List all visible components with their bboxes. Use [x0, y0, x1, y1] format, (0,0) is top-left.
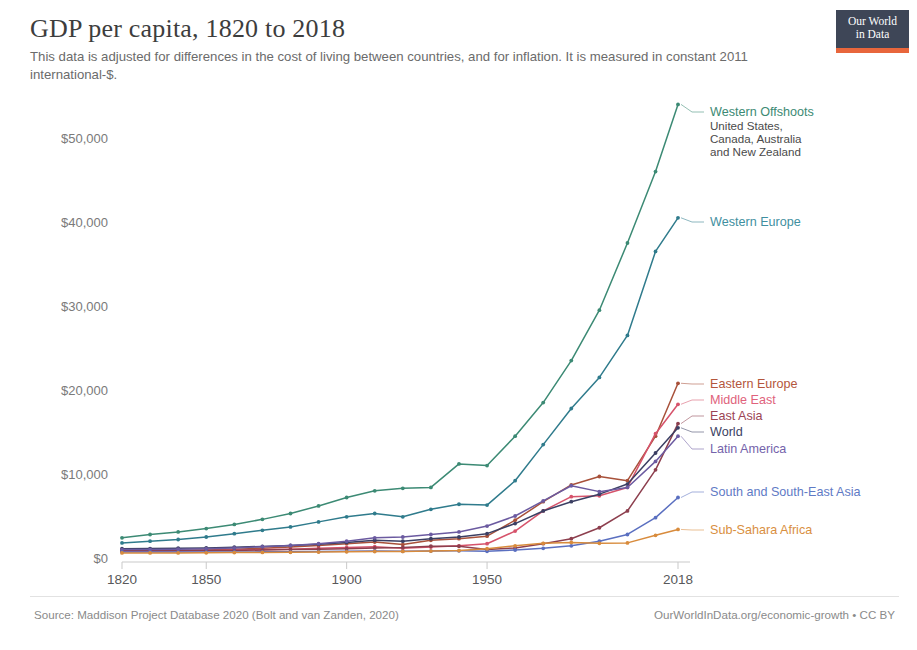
data-point-marker[interactable]	[676, 422, 680, 426]
data-point-marker[interactable]	[429, 486, 433, 490]
data-point-marker[interactable]	[569, 359, 573, 363]
data-point-marker[interactable]	[597, 308, 601, 312]
data-point-marker[interactable]	[148, 551, 152, 555]
data-point-marker[interactable]	[345, 515, 349, 519]
series-label[interactable]: Western Europe	[710, 215, 801, 229]
data-point-marker[interactable]	[148, 533, 152, 537]
data-point-marker[interactable]	[541, 541, 545, 545]
data-point-marker[interactable]	[457, 549, 461, 553]
data-point-marker[interactable]	[654, 468, 658, 472]
data-point-marker[interactable]	[485, 503, 489, 507]
data-point-marker[interactable]	[513, 548, 517, 552]
data-point-marker[interactable]	[204, 527, 208, 531]
data-point-marker[interactable]	[317, 542, 321, 546]
data-point-marker[interactable]	[676, 402, 680, 406]
data-point-marker[interactable]	[261, 517, 265, 521]
data-point-marker[interactable]	[373, 536, 377, 540]
data-point-marker[interactable]	[569, 500, 573, 504]
data-point-marker[interactable]	[597, 475, 601, 479]
data-point-marker[interactable]	[597, 376, 601, 380]
data-point-marker[interactable]	[654, 516, 658, 520]
data-point-marker[interactable]	[626, 509, 630, 513]
data-point-marker[interactable]	[204, 547, 208, 551]
data-point-marker[interactable]	[676, 426, 680, 430]
data-point-marker[interactable]	[176, 551, 180, 555]
data-point-marker[interactable]	[401, 539, 405, 543]
data-point-marker[interactable]	[654, 533, 658, 537]
data-point-marker[interactable]	[485, 542, 489, 546]
data-point-marker[interactable]	[429, 533, 433, 537]
series-line[interactable]	[122, 436, 678, 549]
data-point-marker[interactable]	[317, 504, 321, 508]
data-point-marker[interactable]	[261, 545, 265, 549]
data-point-marker[interactable]	[626, 486, 630, 490]
data-point-marker[interactable]	[541, 443, 545, 447]
data-point-marker[interactable]	[676, 528, 680, 532]
series-label[interactable]: Western Offshoots	[710, 105, 814, 119]
series-line[interactable]	[122, 383, 678, 551]
data-point-marker[interactable]	[597, 541, 601, 545]
data-point-marker[interactable]	[401, 486, 405, 490]
data-point-marker[interactable]	[485, 464, 489, 468]
data-point-marker[interactable]	[541, 499, 545, 503]
data-point-marker[interactable]	[569, 541, 573, 545]
data-point-marker[interactable]	[204, 535, 208, 539]
data-point-marker[interactable]	[485, 547, 489, 551]
data-point-marker[interactable]	[345, 539, 349, 543]
data-point-marker[interactable]	[457, 530, 461, 534]
series-label[interactable]: East Asia	[710, 409, 763, 423]
data-point-marker[interactable]	[654, 460, 658, 464]
data-point-marker[interactable]	[541, 546, 545, 550]
data-point-marker[interactable]	[597, 490, 601, 494]
data-point-marker[interactable]	[176, 530, 180, 534]
data-point-marker[interactable]	[485, 524, 489, 528]
data-point-marker[interactable]	[289, 550, 293, 554]
data-point-marker[interactable]	[345, 496, 349, 500]
data-point-marker[interactable]	[597, 526, 601, 530]
data-point-marker[interactable]	[120, 541, 124, 545]
data-point-marker[interactable]	[429, 537, 433, 541]
series-line[interactable]	[122, 218, 678, 543]
data-point-marker[interactable]	[541, 509, 545, 513]
data-point-marker[interactable]	[317, 520, 321, 524]
data-point-marker[interactable]	[569, 495, 573, 499]
data-point-marker[interactable]	[289, 544, 293, 548]
series-line[interactable]	[122, 424, 678, 551]
data-point-marker[interactable]	[373, 550, 377, 554]
data-point-marker[interactable]	[232, 523, 236, 527]
data-point-marker[interactable]	[261, 551, 265, 555]
data-point-marker[interactable]	[626, 241, 630, 245]
series-line[interactable]	[122, 104, 678, 537]
data-point-marker[interactable]	[513, 522, 517, 526]
data-point-marker[interactable]	[401, 546, 405, 550]
data-point-marker[interactable]	[513, 529, 517, 533]
data-point-marker[interactable]	[485, 532, 489, 536]
data-point-marker[interactable]	[289, 512, 293, 516]
data-point-marker[interactable]	[676, 434, 680, 438]
data-point-marker[interactable]	[676, 381, 680, 385]
data-point-marker[interactable]	[176, 538, 180, 542]
data-point-marker[interactable]	[289, 525, 293, 529]
data-point-marker[interactable]	[148, 539, 152, 543]
data-point-marker[interactable]	[429, 507, 433, 511]
data-point-marker[interactable]	[457, 502, 461, 506]
data-point-marker[interactable]	[676, 216, 680, 220]
data-point-marker[interactable]	[429, 549, 433, 553]
data-point-marker[interactable]	[654, 250, 658, 254]
data-point-marker[interactable]	[457, 462, 461, 466]
data-point-marker[interactable]	[373, 489, 377, 493]
data-point-marker[interactable]	[569, 544, 573, 548]
data-point-marker[interactable]	[626, 541, 630, 545]
data-point-marker[interactable]	[457, 535, 461, 539]
series-label[interactable]: Eastern Europe	[710, 377, 798, 391]
data-point-marker[interactable]	[654, 432, 658, 436]
data-point-marker[interactable]	[401, 535, 405, 539]
data-point-marker[interactable]	[654, 170, 658, 174]
data-point-marker[interactable]	[457, 544, 461, 548]
data-point-marker[interactable]	[676, 103, 680, 107]
data-point-marker[interactable]	[373, 512, 377, 516]
data-point-marker[interactable]	[569, 484, 573, 488]
data-point-marker[interactable]	[654, 451, 658, 455]
series-label[interactable]: Sub-Sahara Africa	[710, 523, 812, 537]
data-point-marker[interactable]	[626, 533, 630, 537]
